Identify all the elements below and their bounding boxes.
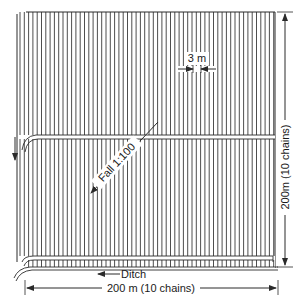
mid-field-channel bbox=[22, 135, 275, 152]
width-dimension: 200 m (10 chains) bbox=[25, 280, 278, 295]
fall-direction-arrow: Fall 1:100 bbox=[91, 122, 158, 193]
spacing-label: 3 m bbox=[188, 52, 206, 64]
drainage-diagram: 3 m Fall 1:100 200m (10 chains) Ditch bbox=[0, 0, 303, 306]
ditch-label: Ditch bbox=[121, 268, 146, 280]
height-dimension: 200m (10 chains) bbox=[277, 12, 293, 267]
height-label: 200m (10 chains) bbox=[279, 125, 291, 210]
width-label: 200 m (10 chains) bbox=[107, 282, 195, 294]
field-outline bbox=[17, 12, 275, 268]
